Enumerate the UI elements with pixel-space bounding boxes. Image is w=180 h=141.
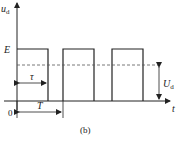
pulse-3 [112,49,143,101]
period-label: T [37,100,44,111]
pulse-2 [63,49,94,101]
pulse-width-label: τ [30,71,34,82]
average-label: Ud [163,78,174,91]
level-label: E [3,44,10,55]
x-axis-label: t [172,103,175,114]
pulse-train [17,49,143,101]
pwm-waveform-diagram: ud E τ 0 T Ud t (b) [0,0,180,141]
y-axis-label: ud [1,3,10,16]
origin-label: 0 [8,108,13,118]
caption: (b) [80,125,91,135]
